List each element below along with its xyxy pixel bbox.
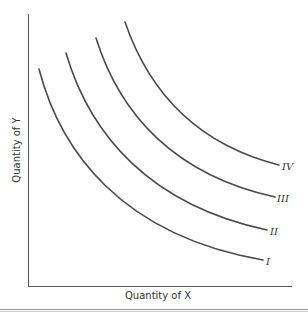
- indifference-curve-i: [39, 69, 263, 260]
- indifference-curve-iv: [125, 22, 279, 165]
- curve-label-ii: II: [269, 226, 279, 237]
- curve-label-iv: IV: [281, 161, 295, 172]
- indifference-curve-diagram: I II III IV Quantity of X Quantity of Y: [0, 0, 308, 318]
- x-axis-label: Quantity of X: [125, 290, 191, 301]
- curve-label-i: I: [265, 256, 271, 267]
- y-axis-label: Quantity of Y: [11, 116, 22, 182]
- curve-label-iii: III: [276, 193, 290, 204]
- indifference-curve-ii: [66, 53, 267, 230]
